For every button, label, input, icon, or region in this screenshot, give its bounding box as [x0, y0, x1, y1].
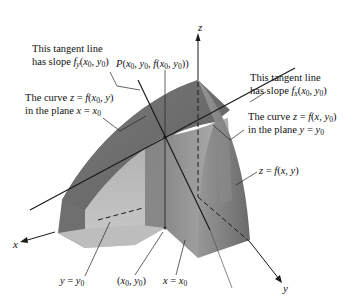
- curve-x0-label-line1: The curve z = f(x0, y): [25, 92, 113, 103]
- plane-y0-slab: [145, 137, 165, 232]
- x-axis-label: x: [13, 239, 18, 250]
- leader-plane-x0: [176, 240, 185, 275]
- partial-derivative-diagram: z x y This tangent line has slope fy(x0,…: [0, 0, 355, 303]
- z-axis-arrowhead: [196, 33, 201, 41]
- plane-x0-label: x = x0: [163, 275, 187, 286]
- leader-tangent-fy: [110, 72, 140, 90]
- x-axis-arrowhead: [20, 237, 28, 243]
- curve-y0-label-line1: The curve z = f(x, y0): [248, 111, 336, 122]
- tangent-fy-label-line2: has slope fy(x0, y0): [32, 56, 109, 67]
- y-axis-arrowhead: [275, 275, 282, 283]
- tangent-fy-label-line1: This tangent line: [32, 43, 103, 54]
- y-axis-label: y: [283, 283, 288, 294]
- base-point-label: (x0, y0): [117, 275, 146, 286]
- plane-y0-label: y = y0: [60, 275, 84, 286]
- surface-label: z = f(x, y): [259, 165, 299, 176]
- x-axis: [24, 232, 55, 241]
- point-P-label: P(x0, y0, f(x0, y0)): [116, 58, 189, 69]
- tangent-fx-label-line2: has slope fx(x0, y0): [250, 85, 327, 96]
- curve-x0-label-line2: in the plane x = x0: [25, 105, 101, 116]
- z-axis-label: z: [198, 22, 202, 33]
- y-axis: [250, 242, 279, 279]
- base-point: [164, 227, 167, 230]
- tangent-fx-label-line1: This tangent line: [250, 72, 321, 83]
- curve-y0-label-line2: in the plane y = y0: [248, 124, 324, 135]
